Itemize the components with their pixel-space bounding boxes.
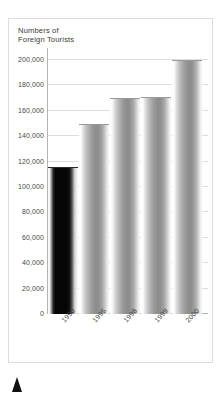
bar-slot: 1990	[48, 60, 78, 314]
y-axis-tick-label: 60,000	[22, 233, 44, 240]
chart-figure: Numbers of Foreign Tourists 020,00040,00…	[8, 18, 213, 363]
y-axis-tick-label: 140,000	[18, 132, 44, 139]
bar[interactable]	[141, 97, 171, 314]
bar-slot: 1999	[141, 60, 171, 314]
y-axis-tick-label: 120,000	[18, 157, 44, 164]
up-triangle-icon	[12, 377, 22, 392]
y-axis-tick-label: 100,000	[18, 183, 44, 190]
bar[interactable]	[172, 60, 202, 314]
bar[interactable]	[48, 167, 78, 314]
y-axis-tick-label: 20,000	[22, 284, 44, 291]
bar[interactable]	[110, 98, 140, 314]
y-axis-tick-label: 180,000	[18, 81, 44, 88]
bar-slot: 2000	[172, 60, 202, 314]
y-axis-tick-label: 160,000	[18, 106, 44, 113]
y-axis-tick-label: 0	[40, 310, 44, 317]
y-axis-tick-label: 40,000	[22, 259, 44, 266]
y-axis-tick-label: 80,000	[22, 208, 44, 215]
chart-title: Numbers of Foreign Tourists	[18, 26, 74, 45]
y-axis-tick-label: 200,000	[18, 56, 44, 63]
bars-layer: 19901995199819992000	[48, 60, 208, 314]
bar[interactable]	[79, 124, 109, 315]
plot-area: 020,00040,00060,00080,000100,000120,0001…	[48, 60, 208, 314]
bar-slot: 1995	[79, 60, 109, 314]
bar-slot: 1998	[110, 60, 140, 314]
